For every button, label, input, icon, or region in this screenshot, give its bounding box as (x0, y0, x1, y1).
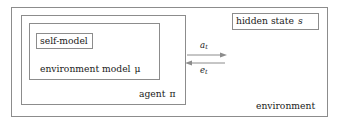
hidden-state-label: hidden states (236, 16, 303, 25)
pi-symbol: π (169, 88, 175, 99)
self-model-label: self-model (40, 36, 88, 45)
percept-subscript: t (205, 68, 208, 76)
hidden-state-label-text: hidden state (236, 15, 294, 26)
agent-label: agentπ (139, 89, 175, 98)
environment-model-label: environment modelμ (40, 64, 141, 73)
mu-symbol: μ (135, 63, 141, 74)
action-subscript: t (205, 43, 208, 51)
environment-label: environment (256, 101, 315, 110)
action-arrow (187, 52, 227, 57)
agent-label-text: agent (139, 88, 165, 99)
hidden-state-symbol: s (298, 15, 303, 26)
action-arrow-label: at (200, 41, 208, 51)
percept-arrow-label: et (200, 66, 208, 76)
environment-model-label-text: environment model (40, 63, 131, 74)
diagram-canvas: self-model environment modelμ agentπ env… (0, 0, 339, 125)
